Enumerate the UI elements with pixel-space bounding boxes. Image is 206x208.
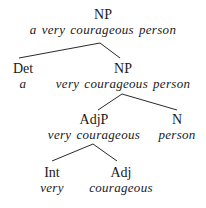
edge-adjp-adj <box>93 144 117 161</box>
node-words: a <box>13 76 33 91</box>
edge-root-np <box>100 43 120 58</box>
node-label: Det <box>13 61 33 76</box>
node-words: very courageous <box>48 127 140 142</box>
node-label: Adj <box>89 165 153 180</box>
node-label: AdjP <box>48 112 140 127</box>
node-label: Int <box>40 165 64 180</box>
node-det: Det a <box>13 61 33 91</box>
node-adj: Adj courageous <box>89 165 153 195</box>
node-words: person <box>158 127 195 142</box>
edge-np-adjp <box>98 94 122 110</box>
syntax-tree: NP a very courageous person Det a NP ver… <box>0 0 206 208</box>
edge-root-det <box>19 43 100 58</box>
node-n: N person <box>158 112 195 142</box>
node-words: very courageous person <box>56 76 191 91</box>
node-int: Int very <box>40 165 64 195</box>
node-label: N <box>158 112 195 127</box>
node-words: very <box>40 180 64 195</box>
node-np: NP very courageous person <box>56 61 191 91</box>
node-adjp: AdjP very courageous <box>48 112 140 142</box>
edge-np-n <box>122 94 177 110</box>
node-label: NP <box>30 7 176 22</box>
node-words: courageous <box>89 180 153 195</box>
node-root-np: NP a very courageous person <box>30 7 176 37</box>
node-words: a very courageous person <box>30 22 176 37</box>
node-label: NP <box>56 61 191 76</box>
edge-adjp-int <box>52 144 93 161</box>
